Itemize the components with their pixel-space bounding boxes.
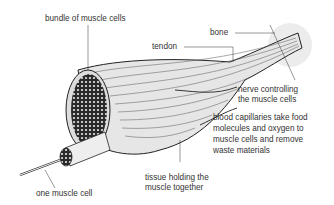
label-blood-3: muscle cells and remove — [213, 135, 303, 145]
label-blood-2: molecules and oxygen to — [213, 124, 304, 134]
label-bone: bone — [210, 28, 228, 38]
label-tissue-1: tissue holding the — [145, 173, 209, 183]
label-nerve-1: nerve controlling — [238, 85, 298, 95]
muscle-fibre-bundle — [20, 132, 110, 175]
label-blood-4: waste materials — [213, 146, 270, 156]
label-bundle: bundle of muscle cells — [45, 14, 126, 24]
label-nerve-2: the muscle cells — [238, 95, 296, 105]
label-tissue-2: muscle together — [145, 183, 203, 193]
label-blood-1: blood capillaries take food — [213, 113, 308, 123]
label-tendon: tendon — [152, 42, 177, 52]
label-cell: one muscle cell — [36, 189, 92, 199]
